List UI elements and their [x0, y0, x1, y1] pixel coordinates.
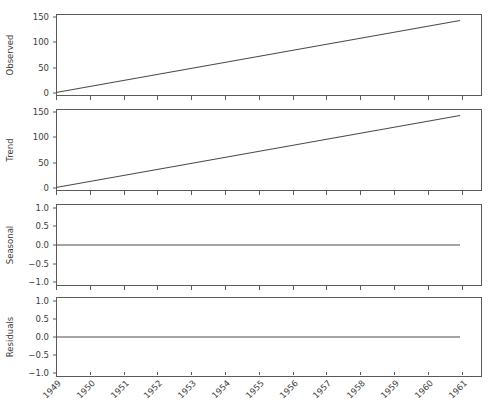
x-tick-label: 1951 — [100, 378, 131, 407]
x-tick-mark — [293, 286, 294, 290]
y-tick-label: 150 — [33, 12, 49, 22]
x-tick-mark — [90, 96, 91, 100]
x-tick-label: 1949 — [32, 378, 63, 407]
y-tick-label: 50 — [38, 158, 49, 168]
x-tick-mark — [157, 191, 158, 195]
x-tick-mark — [90, 286, 91, 290]
panel-residuals: Residuals −1.0−0.50.00.51.0 — [56, 297, 482, 377]
x-tick-mark — [360, 191, 361, 195]
x-tick-mark — [157, 372, 158, 376]
series-path — [56, 116, 460, 188]
x-tick-mark — [191, 286, 192, 290]
panel-observed: Observed 050100150 — [56, 14, 482, 96]
x-tick-mark — [225, 96, 226, 100]
x-tick-mark — [326, 372, 327, 376]
panel-seasonal: Seasonal −1.0−0.50.00.51.0 — [56, 204, 482, 286]
x-tick-mark — [191, 96, 192, 100]
y-tick-label: −1.0 — [28, 277, 49, 287]
x-tick-mark — [394, 372, 395, 376]
y-tick-label: 100 — [33, 132, 49, 142]
x-tick-mark — [259, 286, 260, 290]
panel-trend: Trend 050100150 — [56, 109, 482, 191]
y-tick-label: 150 — [33, 107, 49, 117]
x-tick-mark — [428, 191, 429, 195]
x-tick-mark — [56, 286, 57, 290]
x-tick-mark — [428, 96, 429, 100]
x-tick-mark — [157, 286, 158, 290]
x-tick-mark — [462, 96, 463, 100]
x-tick-label: 1954 — [201, 378, 232, 407]
x-tick-mark — [394, 96, 395, 100]
y-tick-label: −1.0 — [28, 368, 49, 378]
x-tick-mark — [293, 372, 294, 376]
x-tick-label: 1960 — [404, 378, 435, 407]
x-tick-mark — [293, 96, 294, 100]
x-tick-mark — [326, 96, 327, 100]
x-tick-mark — [360, 372, 361, 376]
x-tick-mark — [462, 286, 463, 290]
y-tick-label: 0.0 — [35, 332, 49, 342]
panel-ylabel-residuals: Residuals — [5, 317, 15, 357]
y-tick-label: 0 — [44, 183, 49, 193]
x-tick-mark — [428, 372, 429, 376]
y-tick-label: −0.5 — [28, 350, 49, 360]
x-tick-mark — [259, 191, 260, 195]
x-tick-mark — [90, 191, 91, 195]
x-tick-label: 1957 — [302, 378, 333, 407]
x-tick-mark — [259, 96, 260, 100]
x-tick-mark — [428, 286, 429, 290]
y-tick-label: 0 — [44, 88, 49, 98]
x-tick-mark — [124, 96, 125, 100]
x-tick-label: 1959 — [370, 378, 401, 407]
x-tick-mark — [326, 286, 327, 290]
panel-ylabel-seasonal: Seasonal — [5, 226, 15, 264]
y-tick-label: 0.5 — [35, 314, 49, 324]
x-tick-mark — [56, 96, 57, 100]
x-tick-mark — [462, 191, 463, 195]
y-tick-label: 1.0 — [35, 296, 49, 306]
panel-ylabel-observed: Observed — [5, 35, 15, 76]
y-tick-label: 100 — [33, 37, 49, 47]
panel-ylabel-trend: Trend — [5, 138, 15, 161]
x-tick-mark — [157, 96, 158, 100]
x-tick-mark — [90, 372, 91, 376]
y-tick-label: 0.0 — [35, 240, 49, 250]
x-tick-label: 1950 — [66, 378, 97, 407]
seasonal-decomposition-figure: Observed 050100150 Trend 050100150 Seaso… — [0, 0, 498, 407]
x-axis: 1949195019511952195319541955195619571958… — [56, 375, 482, 407]
x-tick-mark — [326, 191, 327, 195]
x-tick-mark — [56, 191, 57, 195]
x-tick-mark — [124, 372, 125, 376]
x-tick-label: 1955 — [235, 378, 266, 407]
x-tick-mark — [124, 286, 125, 290]
y-tick-label: 50 — [38, 63, 49, 73]
y-tick-label: 1.0 — [35, 203, 49, 213]
data-line-observed — [56, 14, 482, 96]
x-tick-mark — [394, 191, 395, 195]
data-line-seasonal — [56, 204, 482, 286]
x-tick-label: 1956 — [269, 378, 300, 407]
data-line-residuals — [56, 297, 482, 377]
x-tick-mark — [191, 191, 192, 195]
x-tick-mark — [225, 191, 226, 195]
x-tick-mark — [191, 372, 192, 376]
y-tick-label: −0.5 — [28, 259, 49, 269]
x-tick-mark — [360, 96, 361, 100]
x-tick-label: 1952 — [133, 378, 164, 407]
x-tick-label: 1958 — [336, 378, 367, 407]
x-tick-mark — [394, 286, 395, 290]
x-tick-mark — [56, 372, 57, 376]
x-tick-label: 1961 — [438, 378, 469, 407]
series-path — [56, 21, 460, 93]
x-tick-mark — [360, 286, 361, 290]
x-tick-label: 1953 — [167, 378, 198, 407]
x-tick-mark — [293, 191, 294, 195]
x-tick-mark — [462, 372, 463, 376]
y-tick-label: 0.5 — [35, 221, 49, 231]
x-tick-mark — [124, 191, 125, 195]
x-tick-mark — [259, 372, 260, 376]
x-tick-mark — [225, 286, 226, 290]
x-tick-mark — [225, 372, 226, 376]
data-line-trend — [56, 109, 482, 191]
